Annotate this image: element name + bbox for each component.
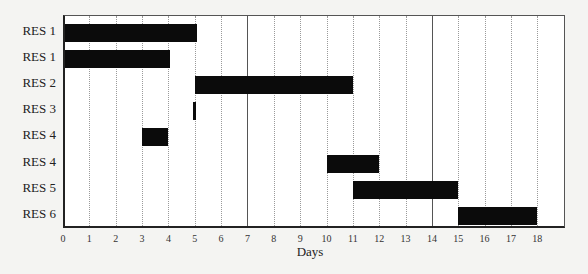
row-label: RES 5 [0,181,56,195]
x-tick-label: 2 [106,233,126,244]
task-bar [195,76,353,94]
task-bar [458,207,537,225]
gridline-day-7 [247,16,248,226]
gridline-day-8 [274,16,275,226]
x-tick-label: 17 [501,233,521,244]
gridline-day-2 [116,16,117,226]
x-tick-label: 4 [158,233,178,244]
row-label: RES 6 [0,207,56,221]
x-tick-label: 7 [237,233,257,244]
gridline-day-10 [327,16,328,226]
x-tick-label: 18 [527,233,547,244]
task-bar [142,128,168,146]
gridline-day-6 [221,16,222,226]
x-tick-label: 15 [448,233,468,244]
x-tick-label: 3 [132,233,152,244]
task-bar [65,50,170,68]
gridline-day-18 [537,16,538,226]
gridline-day-5 [195,16,196,226]
x-tick-label: 1 [79,233,99,244]
task-bar [327,155,380,173]
gridline-day-17 [511,16,512,226]
row-label: RES 4 [0,128,56,142]
gridline-day-3 [142,16,143,226]
x-tick-label: 9 [290,233,310,244]
x-tick-label: 13 [396,233,416,244]
task-bar [65,24,197,42]
x-tick-label: 14 [422,233,442,244]
gantt-chart: RES 1RES 1RES 2RES 3RES 4RES 4RES 5RES 6… [0,0,588,274]
x-tick-label: 5 [185,233,205,244]
plot-area [63,15,565,228]
x-axis-title: Days [280,244,340,260]
row-label: RES 4 [0,155,56,169]
gridline-day-15 [458,16,459,226]
gridline-day-4 [168,16,169,226]
row-label: RES 3 [0,102,56,116]
row-label: RES 1 [0,24,56,38]
row-label: RES 1 [0,50,56,64]
x-tick-label: 8 [264,233,284,244]
x-tick-label: 16 [475,233,495,244]
gridline-day-1 [89,16,90,226]
x-tick-label: 11 [343,233,363,244]
x-tick-label: 12 [369,233,389,244]
gridline-day-16 [485,16,486,226]
x-tick-label: 0 [53,233,73,244]
x-tick-label: 6 [211,233,231,244]
task-bar [193,102,196,120]
gridline-day-9 [300,16,301,226]
row-label: RES 2 [0,76,56,90]
x-tick-label: 10 [317,233,337,244]
task-bar [353,181,458,199]
